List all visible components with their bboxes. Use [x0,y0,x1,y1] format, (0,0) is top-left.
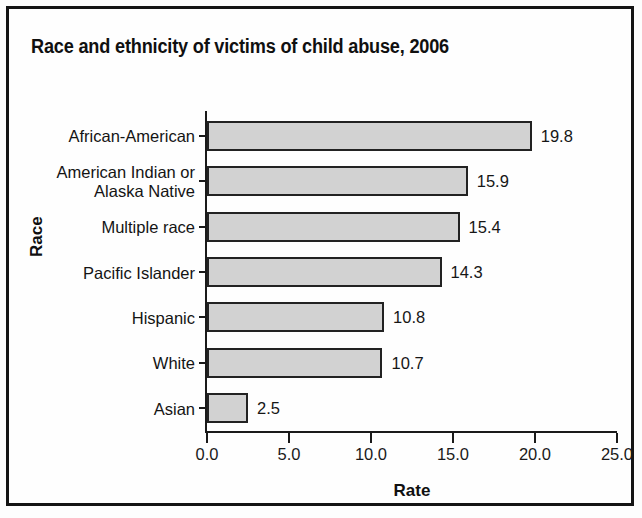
x-tick-label: 5.0 [278,445,301,464]
x-tick [452,433,454,443]
y-tick [199,180,207,182]
bar [207,393,248,423]
x-tick-label: 20.0 [519,445,551,464]
bar-value-label: 10.7 [391,355,423,372]
y-category-label: American Indian or Alaska Native [9,163,195,202]
x-tick-label: 15.0 [437,445,469,464]
y-category-label: African-American [9,127,195,146]
y-tick [199,407,207,409]
y-category-label: Pacific Islander [9,264,195,283]
y-category-label: Multiple race [9,218,195,237]
plot-area: 0.05.010.015.020.025.0 African-AmericanA… [207,113,617,431]
x-tick [370,433,372,443]
x-tick [206,433,208,443]
y-tick [199,135,207,137]
chart-frame: Race and ethnicity of victims of child a… [6,6,634,506]
x-tick [616,433,618,443]
y-category-label: Asian [9,400,195,419]
x-tick-label: 10.0 [355,445,387,464]
y-tick [199,316,207,318]
bar-value-label: 19.8 [541,128,573,145]
bar-value-label: 10.8 [393,309,425,326]
x-tick [534,433,536,443]
x-axis-line [205,431,617,433]
bar-value-label: 2.5 [257,400,280,417]
bar-value-label: 14.3 [451,264,483,281]
bar [207,302,384,332]
bar [207,257,442,287]
x-tick [288,433,290,443]
chart-page: Race and ethnicity of victims of child a… [0,0,642,518]
bar [207,166,468,196]
bar [207,212,460,242]
x-tick-label: 0.0 [196,445,219,464]
y-tick [199,362,207,364]
bar [207,121,532,151]
bar-value-label: 15.4 [469,219,501,236]
y-category-label: Hispanic [9,309,195,328]
y-tick [199,226,207,228]
x-axis-title: Rate [207,481,617,501]
page-title: Race and ethnicity of victims of child a… [31,35,449,58]
x-tick-label: 25.0 [601,445,633,464]
y-tick [199,271,207,273]
y-category-label: White [9,354,195,373]
bar-value-label: 15.9 [477,173,509,190]
bar [207,348,382,378]
